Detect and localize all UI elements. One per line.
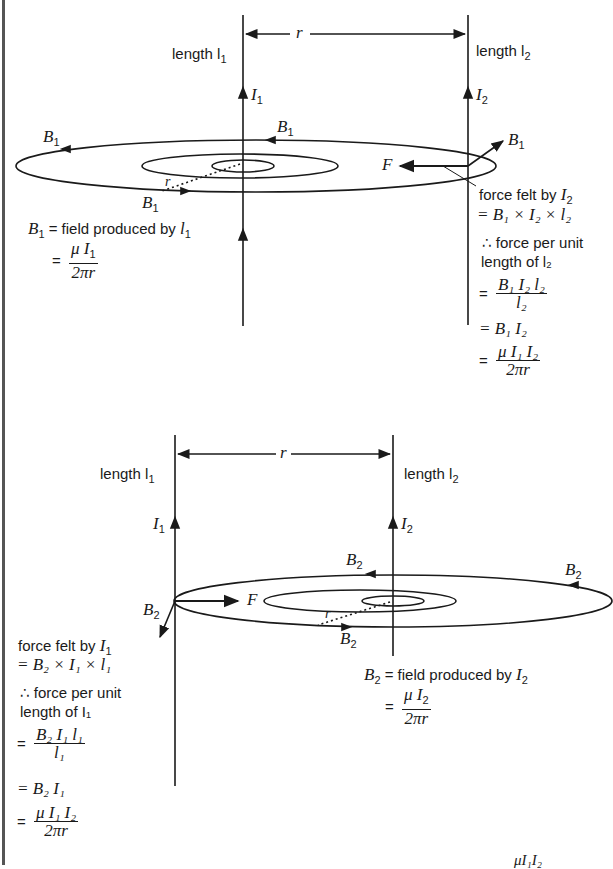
denominator: l₁ — [34, 744, 85, 761]
top-force-step2: = B₁ I₂ — [479, 320, 527, 337]
top-force-felt-line2: = B₁ × I₂ × l₂ — [477, 206, 571, 223]
var: B — [508, 130, 518, 149]
bottom-separation-label: r — [280, 444, 287, 461]
var-sub: 1 — [185, 228, 191, 240]
bottom-field-label-right: B2 — [565, 561, 582, 584]
top-force-per-unit-line1: ∴ force per unit — [482, 234, 583, 251]
num-sub: 2 — [422, 694, 428, 706]
top-field-ring-mid — [142, 154, 338, 178]
bottom-force-per-unit-line1: ∴ force per unit — [20, 684, 121, 701]
var-sub: 1 — [287, 126, 293, 138]
numerator: μ I₁ I₂ — [34, 804, 78, 822]
equals-sign: = — [385, 698, 394, 715]
bottom-current1-label: I1 — [153, 515, 165, 538]
denominator: 2πr — [402, 710, 431, 727]
bottom-force-per-unit-line2: length of I₁ — [20, 703, 91, 720]
top-force-step3: = μ I₁ I₂2πr — [479, 343, 540, 378]
top-wire2-length-label: length l2 — [476, 42, 531, 65]
footer-partial-formula: μI₁I₂ — [514, 852, 542, 869]
var: B — [43, 127, 53, 146]
bottom-force-felt-line2: = B₂ × I₁ × l₁ — [17, 656, 111, 673]
bottom-field-label-upper: B2 — [346, 551, 363, 574]
var: B — [28, 219, 38, 238]
var-sub: 2 — [522, 674, 528, 686]
top-force-per-unit-line2: length of l₂ — [481, 253, 552, 270]
top-force-step1: = B₁ I₂ l₂l₂ — [479, 276, 547, 311]
bottom-b2-vector-arrow — [160, 601, 175, 637]
var-sub: 1 — [518, 139, 524, 151]
top-radius-label: r — [165, 173, 170, 190]
numerator: μ I1 — [69, 240, 98, 264]
num-text: μ I — [404, 685, 422, 704]
var-sub: 2 — [356, 559, 362, 571]
var-sub: 2 — [153, 609, 159, 621]
var: B — [143, 600, 153, 619]
bottom-current1-arrow — [171, 518, 179, 528]
var: B — [340, 629, 350, 648]
label-text: length l — [476, 42, 524, 59]
top-force-callout-leader — [443, 166, 476, 186]
top-current1-arrow — [239, 88, 247, 98]
var-sub: 2 — [350, 638, 356, 650]
top-b1-vector-arrow — [468, 141, 503, 166]
top-field-label-upper: B1 — [277, 118, 294, 141]
var: B — [565, 560, 575, 579]
var-sub: 2 — [374, 674, 380, 686]
definition-text: = field produced by — [385, 666, 516, 683]
var-sub: 1 — [159, 523, 165, 535]
bottom-wire1-length-label: length l1 — [100, 465, 155, 488]
label-text: length l — [172, 45, 220, 62]
var-sub: 1 — [257, 94, 263, 106]
top-b1-vector-label: B1 — [508, 131, 525, 154]
bottom-field-dir-arrow-1 — [367, 571, 375, 577]
numerator: B₂ I₁ l₁ — [34, 726, 85, 744]
equals-sign: = — [17, 735, 26, 752]
bottom-wire2-length-label: length l2 — [404, 465, 459, 488]
label-sub: 1 — [148, 473, 154, 485]
var-sub: 1 — [53, 136, 59, 148]
numerator: μ I₁ I₂ — [496, 343, 540, 361]
top-field-formula: = μ I12πr — [52, 240, 98, 281]
denominator: 2πr — [496, 361, 540, 378]
fraction: μ I₁ I₂2πr — [34, 804, 78, 839]
bottom-force-step2: = B₂ I₁ — [17, 780, 65, 797]
fraction: μ I₁ I₂2πr — [496, 343, 540, 378]
fraction: B₁ I₂ l₂l₂ — [496, 276, 547, 311]
bottom-radius-label: r — [325, 605, 330, 622]
fraction: B₂ I₁ l₁l₁ — [34, 726, 85, 761]
equals-sign: = — [52, 252, 61, 269]
top-wire1-length-label: length l1 — [172, 45, 227, 68]
denominator: 2πr — [69, 264, 98, 281]
fraction: μ I22πr — [402, 686, 431, 727]
label-sub: 1 — [220, 53, 226, 65]
var: B — [277, 117, 287, 136]
top-field-dir-arrow-3 — [181, 188, 189, 194]
top-current2-arrow — [464, 88, 472, 98]
denominator: l₂ — [496, 294, 547, 311]
var-sub: 2 — [407, 523, 413, 535]
numerator: μ I2 — [402, 686, 431, 710]
top-field-label-left: B1 — [43, 128, 60, 151]
text: force felt by — [18, 637, 100, 654]
label-sub: 2 — [524, 50, 530, 62]
bottom-current2-arrow — [389, 518, 397, 528]
top-separation-label: r — [296, 24, 303, 41]
var-sub: 1 — [38, 228, 44, 240]
bottom-field-formula: = μ I22πr — [385, 686, 431, 727]
label-text: length l — [404, 465, 452, 482]
bottom-force-label: F — [247, 591, 257, 608]
fraction: μ I12πr — [69, 240, 98, 281]
bottom-field-ring-mid — [264, 590, 456, 612]
bottom-b2-vector-label: B2 — [143, 601, 160, 624]
bottom-force-step3: = μ I₁ I₂2πr — [17, 804, 78, 839]
num-text: μ I — [71, 239, 89, 258]
var-sub: 2 — [482, 94, 488, 106]
top-field-dir-arrow-2 — [267, 137, 275, 143]
equals-sign: = — [17, 813, 26, 830]
bottom-field-label-lower: B2 — [340, 630, 357, 653]
bottom-force-step1: = B₂ I₁ l₁l₁ — [17, 726, 85, 761]
denominator: 2πr — [34, 822, 78, 839]
label-sub: 2 — [452, 473, 458, 485]
text: force felt by — [479, 186, 561, 203]
